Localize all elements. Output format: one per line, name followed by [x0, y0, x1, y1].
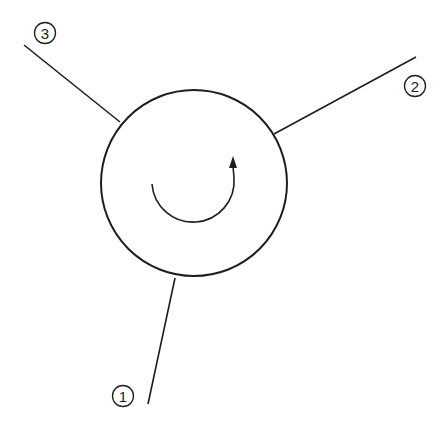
port-1-label-text: 1	[119, 388, 127, 405]
port-2-label-text: 2	[411, 78, 419, 95]
port-3-label: 3	[35, 23, 56, 44]
port-3-label-text: 3	[41, 25, 49, 42]
rotation-arrowhead-icon	[229, 156, 237, 168]
valve-body-circle	[101, 90, 287, 276]
port-3-line	[24, 45, 120, 122]
valve-diagram: 1 2 3	[0, 0, 444, 424]
rotation-arrow-arc	[152, 166, 234, 222]
port-2-label: 2	[405, 76, 426, 97]
port-1-label: 1	[113, 386, 134, 407]
port-2-line	[274, 57, 416, 134]
port-1-line	[148, 278, 175, 404]
